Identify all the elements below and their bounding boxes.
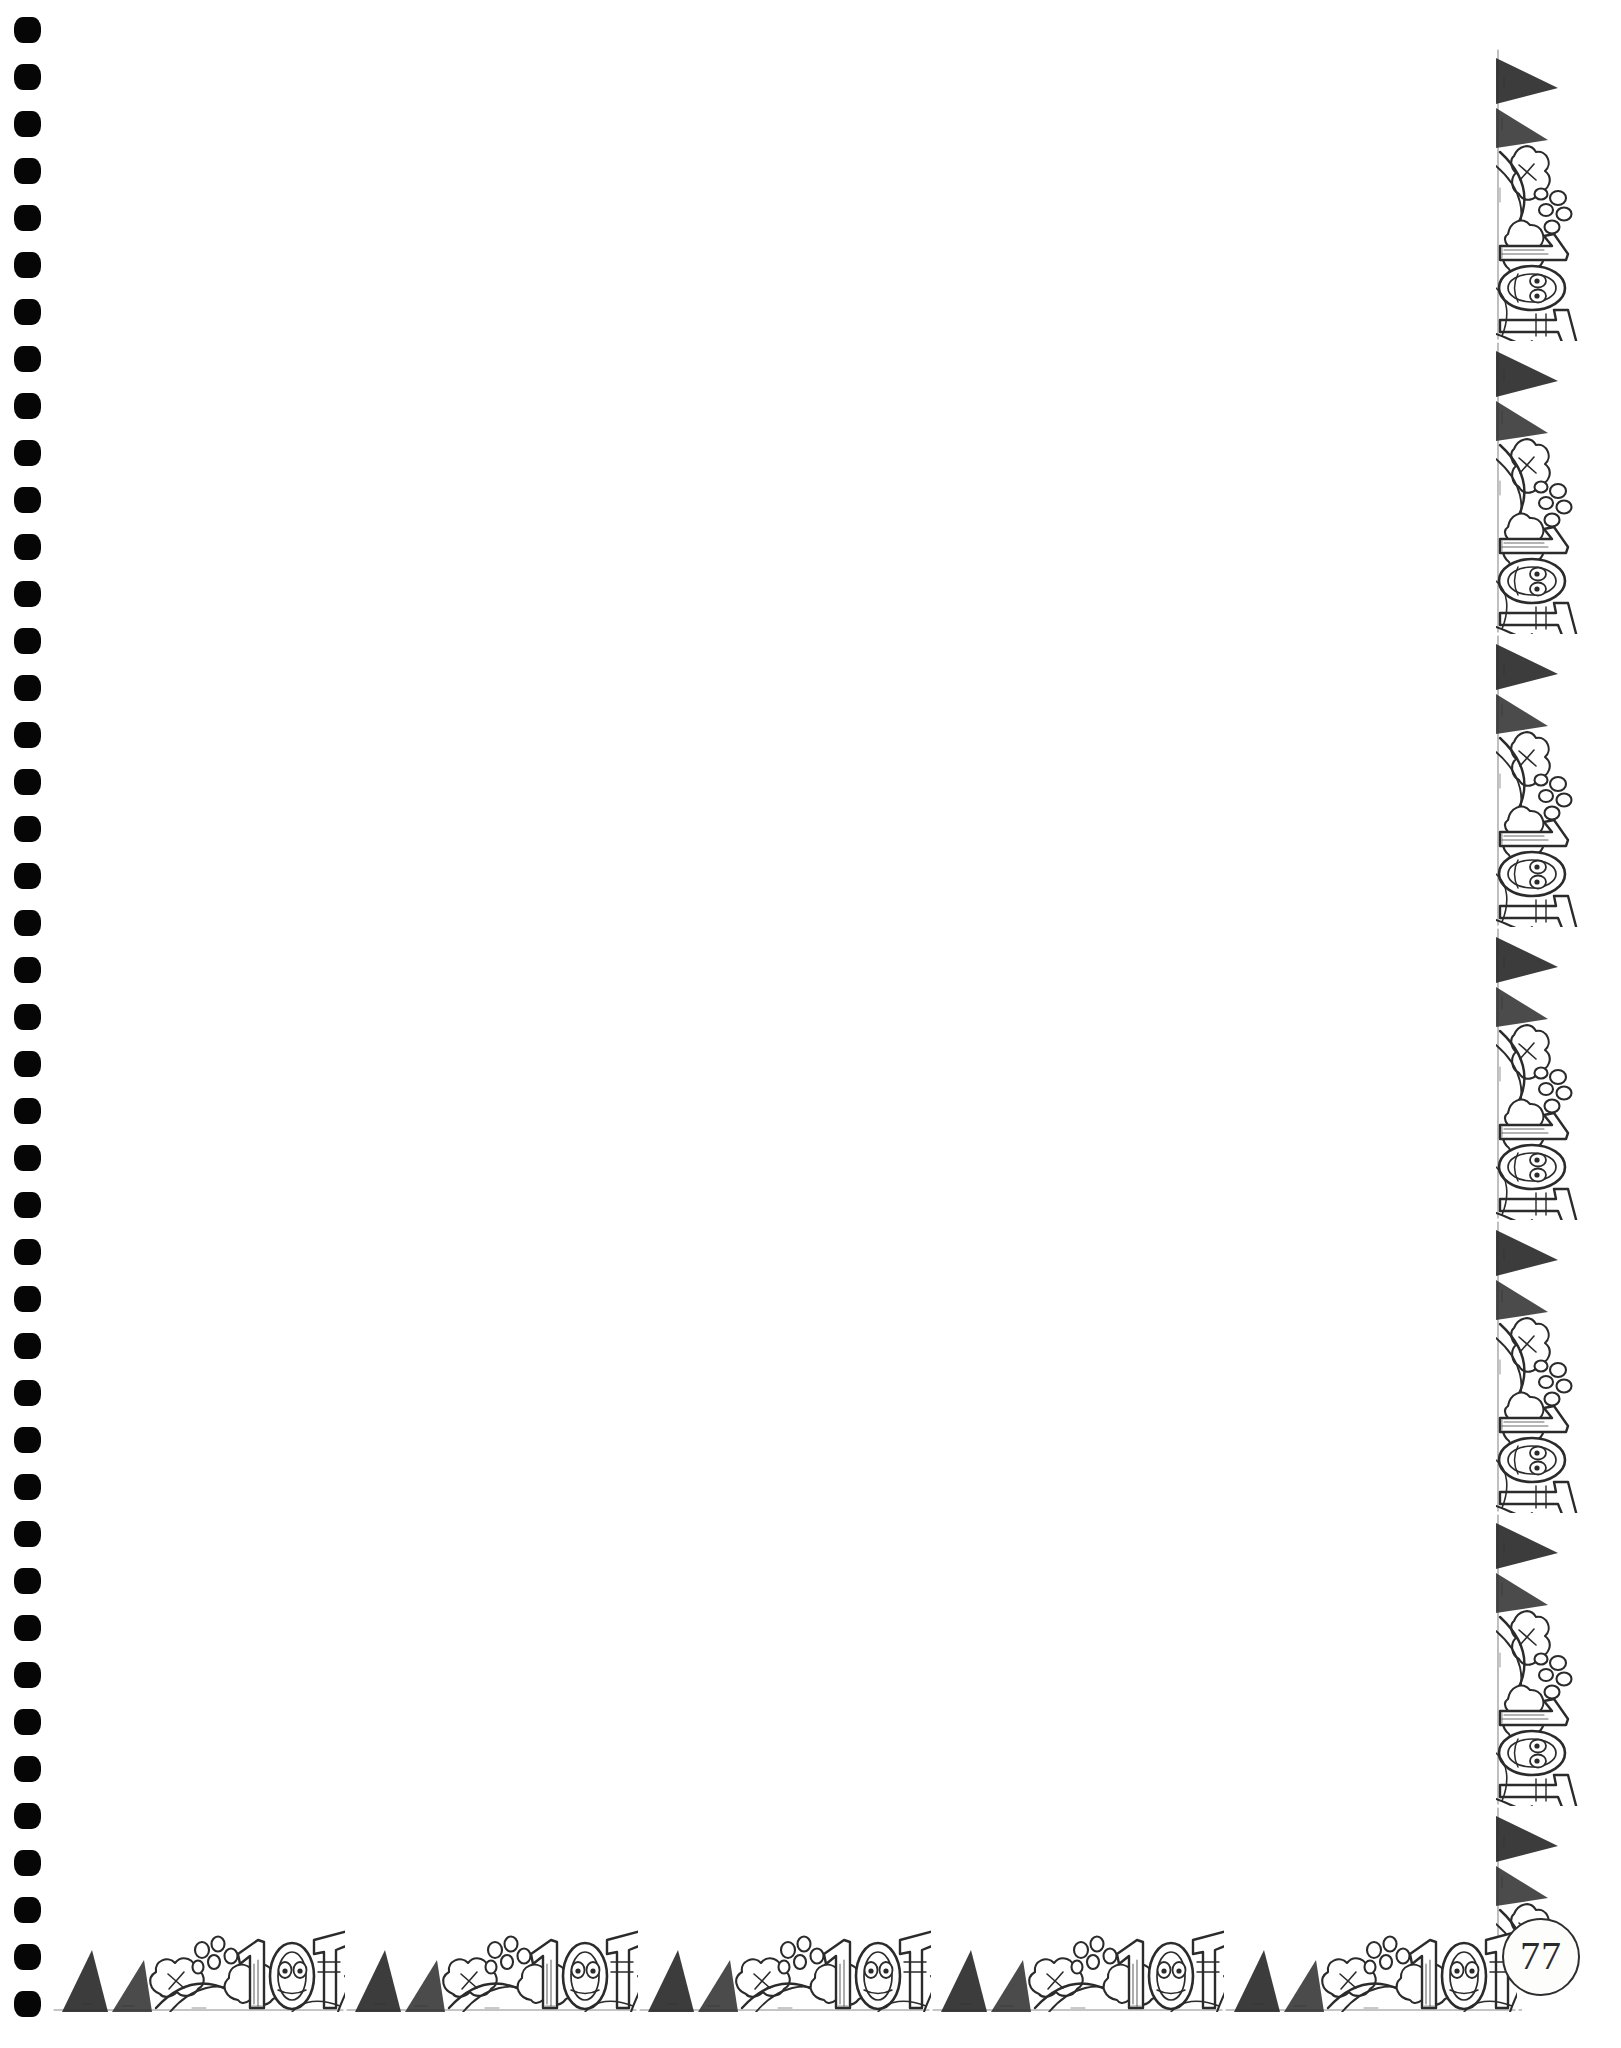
binding-hole bbox=[14, 1662, 41, 1688]
binding-hole bbox=[14, 64, 41, 90]
border-motif-tile bbox=[1496, 1513, 1588, 1806]
page-number-medallion: 77 bbox=[1502, 1918, 1580, 1996]
binding-hole bbox=[14, 534, 41, 560]
binding-hole bbox=[14, 393, 41, 419]
binding-hole bbox=[14, 299, 41, 325]
border-motif-tile bbox=[1224, 1920, 1517, 2012]
binding-hole bbox=[14, 1427, 41, 1453]
binding-hole bbox=[14, 1709, 41, 1735]
binding-hole bbox=[14, 1568, 41, 1594]
binding-hole bbox=[14, 910, 41, 936]
page-number-text: 77 bbox=[1520, 1936, 1562, 1976]
binding-hole bbox=[14, 816, 41, 842]
border-motif-tile bbox=[345, 1920, 638, 2012]
binding-hole bbox=[14, 1333, 41, 1359]
binding-hole bbox=[14, 1897, 41, 1923]
binding-hole bbox=[14, 1192, 41, 1218]
binding-hole bbox=[14, 1239, 41, 1265]
binding-hole bbox=[14, 440, 41, 466]
binding-hole bbox=[14, 1615, 41, 1641]
binding-hole bbox=[14, 675, 41, 701]
binding-hole bbox=[14, 1098, 41, 1124]
binding-hole bbox=[14, 769, 41, 795]
border-motif-tile bbox=[1496, 634, 1588, 927]
border-motif-tile bbox=[638, 1920, 931, 2012]
bottom-decorative-border bbox=[52, 1920, 1522, 2012]
border-motif-tile bbox=[1496, 927, 1588, 1220]
binding-hole bbox=[14, 1803, 41, 1829]
border-motif-tile bbox=[1496, 1220, 1588, 1513]
binding-hole bbox=[14, 1850, 41, 1876]
binding-hole bbox=[14, 722, 41, 748]
border-motif-tile bbox=[1496, 48, 1588, 341]
binding-hole bbox=[14, 1756, 41, 1782]
binding-hole bbox=[14, 863, 41, 889]
border-motif-tile bbox=[931, 1920, 1224, 2012]
border-motif-tile bbox=[1496, 341, 1588, 634]
binding-hole bbox=[14, 1051, 41, 1077]
binding-hole bbox=[14, 17, 41, 43]
binding-hole bbox=[14, 1521, 41, 1547]
binding-hole bbox=[14, 628, 41, 654]
binding-hole bbox=[14, 1286, 41, 1312]
binding-hole bbox=[14, 252, 41, 278]
binding-hole bbox=[14, 581, 41, 607]
binding-hole bbox=[14, 1474, 41, 1500]
binding-hole bbox=[14, 1004, 41, 1030]
content-area[interactable] bbox=[62, 20, 1481, 1908]
binding-hole bbox=[14, 1944, 41, 1970]
binding-hole bbox=[14, 1991, 41, 2017]
binding-hole bbox=[14, 1380, 41, 1406]
binding-hole bbox=[14, 346, 41, 372]
binding-hole bbox=[14, 111, 41, 137]
spiral-binding-strip bbox=[0, 0, 60, 2048]
right-decorative-border bbox=[1496, 48, 1588, 1960]
scanned-page: 77 bbox=[0, 0, 1621, 2048]
binding-hole bbox=[14, 957, 41, 983]
binding-hole bbox=[14, 487, 41, 513]
binding-hole bbox=[14, 1145, 41, 1171]
binding-hole bbox=[14, 158, 41, 184]
binding-hole bbox=[14, 205, 41, 231]
border-motif-tile bbox=[52, 1920, 345, 2012]
